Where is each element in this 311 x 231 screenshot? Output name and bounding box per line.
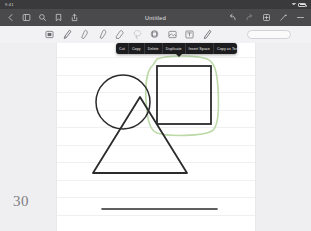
tool-palette [0,26,311,43]
sidebar-toggle-icon[interactable] [22,13,31,22]
battery-icon [298,3,306,7]
square-shape [157,66,211,124]
menu-item-cut[interactable]: Cut [116,43,129,54]
search-icon[interactable] [38,13,47,22]
add-page-icon[interactable] [262,13,271,22]
lasso-tool[interactable] [132,28,143,41]
menu-item-copy[interactable]: Copy [129,43,145,54]
text-tool[interactable] [184,28,195,41]
bookmark-icon[interactable] [54,13,63,22]
menu-item-insert-space[interactable]: Insert Space [186,43,214,54]
eraser-tool[interactable] [114,28,125,41]
circle-shape [96,75,150,129]
share-icon[interactable] [70,13,79,22]
pen-tool[interactable] [62,28,73,41]
highlighter-tool[interactable] [79,28,90,41]
redo-icon[interactable] [245,13,254,22]
undo-icon[interactable] [228,13,237,22]
menu-item-delete[interactable]: Delete [145,43,163,54]
ink-layer [57,43,255,231]
menu-item-duplicate[interactable]: Duplicate [163,43,186,54]
context-menu-arrow [176,54,182,57]
color-swatch-pill[interactable] [247,30,291,39]
status-bar: 9:41 [0,0,311,9]
marker-tool[interactable] [97,28,108,41]
wifi-icon [291,3,296,7]
selection-tool[interactable] [44,28,55,41]
page-number-label: 30 [13,193,29,210]
menu-item-copy-as-text[interactable]: Copy as Text [214,43,237,54]
canvas-area[interactable]: 30 [0,43,311,231]
navigation-bar: Untitled [0,9,311,26]
selection-context-menu[interactable]: CutCopyDeleteDuplicateInsert SpaceCopy a… [116,43,237,54]
nav-right-group [228,13,305,22]
status-indicators [291,3,306,7]
shape-tool[interactable] [149,28,160,41]
more-options-icon[interactable] [296,13,305,22]
back-chevron-icon[interactable] [6,13,15,22]
nav-left-group [6,13,79,22]
image-tool[interactable] [167,28,178,41]
status-time: 9:41 [5,0,14,9]
laser-pointer-tool[interactable] [202,28,213,41]
magic-wand-icon[interactable] [279,13,288,22]
note-page[interactable] [57,43,255,231]
